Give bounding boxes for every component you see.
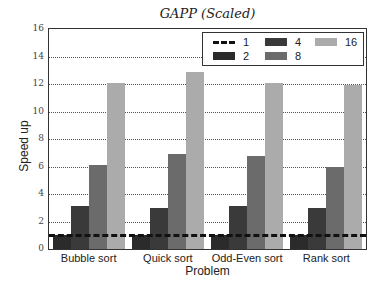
- y-tick-label: 0: [18, 243, 44, 253]
- legend-item-1: 1: [213, 36, 249, 48]
- baseline-speedup-1: [49, 234, 366, 237]
- grid-line: [49, 84, 366, 85]
- chart-title: GAPP (Scaled): [48, 6, 367, 21]
- bar-16: [344, 85, 362, 249]
- grid-line: [49, 139, 366, 140]
- x-tick-label: Quick sort: [128, 252, 208, 264]
- x-tick-label: Rank sort: [286, 252, 366, 264]
- swatch-icon: [265, 52, 287, 60]
- swatch-icon: [265, 38, 287, 46]
- y-tick-label: 14: [18, 51, 44, 61]
- y-tick-label: 10: [18, 106, 44, 116]
- y-tick-label: 16: [18, 23, 44, 33]
- dashed-line-icon: [213, 41, 235, 44]
- bar-2: [132, 235, 150, 249]
- legend: 1 4 16 2 8: [202, 32, 364, 66]
- y-tick-label: 4: [18, 188, 44, 198]
- legend-item-16: 16: [315, 36, 357, 48]
- legend-item-4: 4: [265, 36, 301, 48]
- grid-line: [49, 112, 366, 113]
- bar-2: [211, 235, 229, 249]
- bar-4: [229, 206, 247, 249]
- y-tick-label: 2: [18, 216, 44, 226]
- legend-item-8: 8: [265, 50, 301, 62]
- x-tick-label: Odd-Even sort: [207, 252, 287, 264]
- bar-16: [265, 83, 283, 249]
- bar-16: [107, 83, 125, 249]
- swatch-icon: [315, 38, 337, 46]
- legend-item-2: 2: [213, 50, 249, 62]
- bar-2: [53, 235, 71, 249]
- y-tick-label: 12: [18, 78, 44, 88]
- bar-2: [290, 235, 308, 249]
- x-axis-label: Problem: [48, 264, 367, 278]
- swatch-icon: [213, 52, 235, 60]
- bar-4: [150, 208, 168, 249]
- y-tick-label: 8: [18, 133, 44, 143]
- bar-4: [71, 206, 89, 249]
- bar-16: [186, 72, 204, 249]
- y-tick-label: 6: [18, 161, 44, 171]
- bar-4: [308, 208, 326, 249]
- x-tick-label: Bubble sort: [49, 252, 129, 264]
